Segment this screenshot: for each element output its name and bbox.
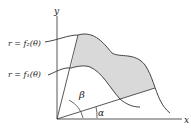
x-axis-label: x — [184, 115, 189, 125]
labels-layer: y x r = f₂(θ) r = f₁(θ) β α — [0, 0, 191, 129]
curve-f1-label: r = f₁(θ) — [8, 70, 41, 79]
y-axis-label: y — [53, 6, 60, 16]
beta-label: β — [78, 89, 85, 100]
alpha-label: α — [98, 108, 104, 118]
curve-f2-label: r = f₂(θ) — [8, 39, 41, 48]
